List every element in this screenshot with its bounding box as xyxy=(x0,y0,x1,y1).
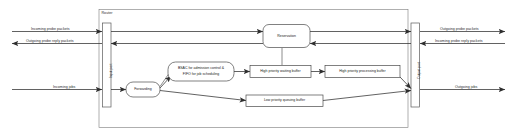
high-priority-waiting-buffer-label: High priority waiting buffer xyxy=(250,69,311,74)
reservation-node-label: Reservation xyxy=(263,34,310,39)
input-port-label: Input port xyxy=(109,64,113,78)
bsac-node-label-line1: BSAC for admission control & xyxy=(168,66,234,71)
outgoing-probe-packets-label: Outgoing probe packets xyxy=(440,27,479,31)
incoming-probe-packets-label: Incoming probe packets xyxy=(31,27,70,31)
outgoing-jobs-label: Outgoing jobs xyxy=(455,85,477,89)
router-frame-label: Router xyxy=(102,11,113,15)
output-port-label: Output port xyxy=(417,62,421,79)
forwarding-node-label: Forwarding xyxy=(126,87,160,92)
low-priority-queuing-buffer-label: Low priority queuing buffer xyxy=(246,98,323,103)
incoming-probe-reply-packets-label: Incoming probe reply packets xyxy=(435,39,483,43)
incoming-jobs-label: Incoming jobs xyxy=(53,85,75,89)
bsac-node-label-line2: FIFO for job scheduling xyxy=(168,72,234,77)
high-priority-processing-buffer-label: High priority processing buffer xyxy=(325,69,400,74)
outgoing-probe-reply-packets-label: Outgoing probe reply packets xyxy=(26,39,74,43)
diagram-canvas: Router Input port Output port Incoming p… xyxy=(0,0,516,137)
